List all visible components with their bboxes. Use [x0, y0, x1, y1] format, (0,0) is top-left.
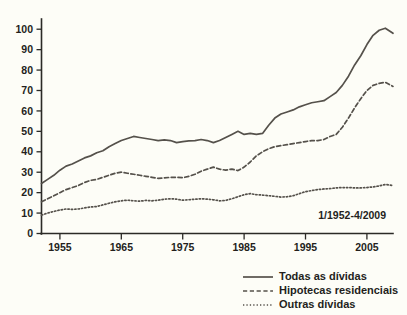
chart-screenshot: 0102030405060708090100 19551965197519851… — [0, 0, 407, 315]
legend-label-2: Hipotecas residenciais — [279, 284, 398, 296]
y-tick-label: 30 — [21, 166, 33, 178]
x-tick-label: 1995 — [294, 241, 318, 253]
y-tick-label: 0 — [27, 227, 33, 239]
x-axis-ticks: 195519651975198519952005 — [48, 234, 379, 254]
y-tick-label: 90 — [21, 43, 33, 55]
x-tick-label: 1975 — [171, 241, 195, 253]
y-tick-label: 70 — [21, 84, 33, 96]
x-tick-label: 1985 — [232, 241, 256, 253]
y-tick-label: 20 — [21, 186, 33, 198]
x-tick-label: 2005 — [355, 241, 379, 253]
series-lines — [42, 28, 394, 215]
y-tick-label: 100 — [15, 23, 33, 35]
legend-label-1: Todas as dívidas — [279, 270, 367, 282]
y-tick-label: 10 — [21, 207, 33, 219]
date-range-annotation: 1/1952-4/2009 — [318, 209, 386, 221]
x-tick-label: 1955 — [48, 241, 72, 253]
y-axis-ticks: 0102030405060708090100 — [15, 23, 41, 239]
y-tick-label: 40 — [21, 145, 33, 157]
legend-label-3: Outras dívidas — [279, 298, 355, 310]
line-chart: 0102030405060708090100 19551965197519851… — [0, 0, 407, 315]
y-tick-label: 60 — [21, 105, 33, 117]
chart-legend: Todas as dívidasHipotecas residenciaisOu… — [243, 270, 398, 310]
series-line-1 — [42, 28, 394, 183]
x-tick-label: 1965 — [110, 241, 134, 253]
y-tick-label: 50 — [21, 125, 33, 137]
y-tick-label: 80 — [21, 64, 33, 76]
